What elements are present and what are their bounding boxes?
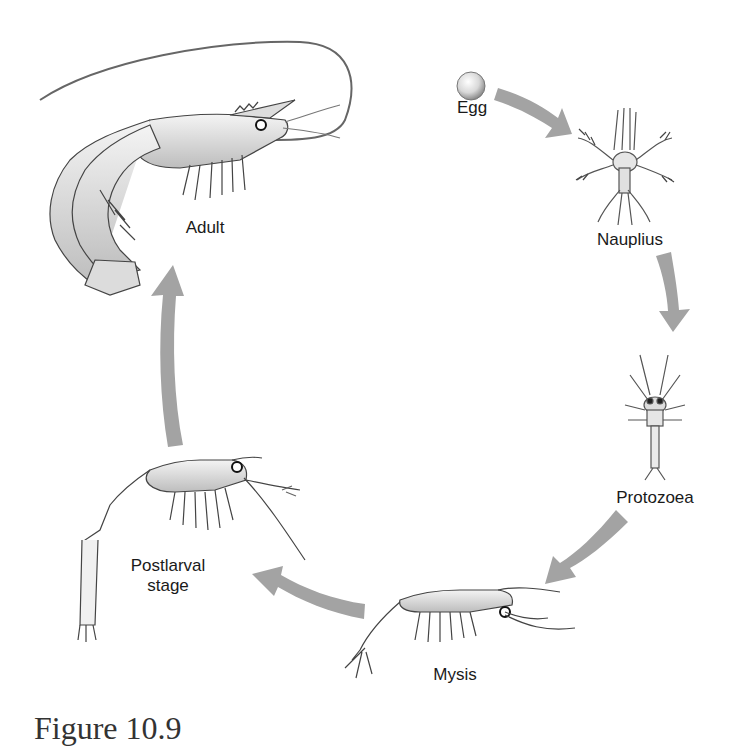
stage-label-postlarval: Postlarval <box>118 556 218 576</box>
protozoea-illustration <box>625 355 685 480</box>
stage-label-protozoea: Protozoea <box>600 488 710 508</box>
arrow-mysis-to-postlarval <box>252 566 365 619</box>
arrow-protozoea-to-mysis <box>545 510 628 584</box>
nauplius-illustration <box>576 108 674 225</box>
arrow-postlarval-to-adult <box>151 265 184 447</box>
arrow-nauplius-to-protozoea <box>656 252 690 332</box>
stage-label-postlarval-line2: stage <box>118 576 218 596</box>
stage-label-adult: Adult <box>170 218 240 238</box>
figure-caption: Figure 10.9 <box>34 712 182 744</box>
postlarval-illustration <box>78 457 305 642</box>
adult-illustration <box>40 42 351 295</box>
stage-label-mysis: Mysis <box>420 665 490 685</box>
stage-label-egg: Egg <box>452 98 492 118</box>
egg-illustration <box>457 72 485 100</box>
stage-label-nauplius: Nauplius <box>585 230 675 250</box>
arrow-egg-to-nauplius <box>494 88 572 138</box>
